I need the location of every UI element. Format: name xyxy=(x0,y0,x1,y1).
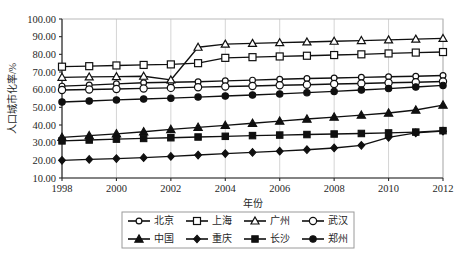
x-tick-label: 2012 xyxy=(433,183,454,194)
series-marker xyxy=(277,132,283,138)
series-marker xyxy=(58,86,65,93)
series-marker xyxy=(331,52,338,59)
series-marker xyxy=(303,52,310,59)
series-marker xyxy=(304,89,310,95)
series-marker xyxy=(249,132,255,138)
chart-canvas: 10.0020.0030.0040.0050.0060.0070.0080.00… xyxy=(0,0,467,264)
legend-item-重庆[interactable]: 重庆 xyxy=(180,230,238,248)
series-marker xyxy=(249,92,255,98)
legend-marker xyxy=(136,218,142,224)
series-marker xyxy=(168,95,174,101)
chart-legend: 北京上海广州武汉中国重庆长沙郑州 xyxy=(122,212,354,248)
series-marker xyxy=(167,84,174,91)
series-marker xyxy=(168,135,174,141)
series-marker xyxy=(140,85,147,92)
x-tick-label: 2010 xyxy=(378,183,399,194)
legend-item-中国[interactable]: 中国 xyxy=(122,230,180,248)
series-marker xyxy=(222,133,228,139)
series-marker xyxy=(331,88,337,94)
series-marker xyxy=(412,49,419,56)
series-marker xyxy=(195,134,201,140)
legend-item-上海[interactable]: 上海 xyxy=(180,212,238,230)
legend-marker xyxy=(252,236,258,242)
series-marker xyxy=(385,130,391,136)
series-marker xyxy=(440,49,447,56)
legend-marker xyxy=(309,217,316,224)
series-marker xyxy=(358,130,364,136)
legend-item-label: 武汉 xyxy=(328,214,348,226)
series-marker xyxy=(113,97,119,103)
series-marker xyxy=(222,93,228,99)
urbanization-rate-line-chart: 10.0020.0030.0040.0050.0060.0070.0080.00… xyxy=(0,0,467,264)
series-marker xyxy=(113,62,120,69)
legend-item-label: 上海 xyxy=(212,214,232,226)
series-marker xyxy=(358,80,365,87)
x-tick-label: 2002 xyxy=(160,183,181,194)
series-marker xyxy=(440,127,446,133)
y-tick-label: 30.00 xyxy=(32,137,56,148)
series-marker xyxy=(304,131,310,137)
series-marker xyxy=(249,82,256,89)
legend-item-label: 中国 xyxy=(154,232,174,244)
series-marker xyxy=(385,85,391,91)
series-marker xyxy=(140,135,146,141)
series-marker xyxy=(86,137,92,143)
y-tick-label: 10.00 xyxy=(32,173,56,184)
x-tick-label: 2000 xyxy=(106,183,127,194)
series-marker xyxy=(222,83,229,90)
series-marker xyxy=(86,98,92,104)
y-tick-label: 20.00 xyxy=(32,155,56,166)
series-marker xyxy=(277,91,283,97)
y-tick-label: 60.00 xyxy=(32,84,56,95)
y-tick-label: 90.00 xyxy=(32,31,56,42)
series-marker xyxy=(331,80,338,87)
series-marker xyxy=(249,54,256,61)
series-marker xyxy=(113,136,119,142)
series-marker xyxy=(385,50,392,57)
series-marker xyxy=(59,63,66,70)
legend-item-label: 长沙 xyxy=(270,233,290,244)
series-marker xyxy=(86,63,93,70)
series-marker xyxy=(413,84,419,90)
legend-item-北京[interactable]: 北京 xyxy=(122,212,180,230)
legend-marker xyxy=(194,218,201,225)
series-marker xyxy=(222,54,229,61)
legend-item-郑州[interactable]: 郑州 xyxy=(296,230,354,248)
legend-marker xyxy=(310,236,316,242)
series-marker xyxy=(413,129,419,135)
series-marker xyxy=(140,61,147,68)
series-marker xyxy=(167,61,174,68)
series-marker xyxy=(59,138,65,144)
series-marker xyxy=(113,85,120,92)
series-marker xyxy=(59,99,65,105)
legend-item-label: 广州 xyxy=(270,215,290,226)
y-axis-title: 人口城市化率/% xyxy=(6,63,18,134)
series-marker xyxy=(195,94,201,100)
legend-item-label: 北京 xyxy=(154,214,174,226)
y-tick-label: 50.00 xyxy=(32,102,56,113)
series-marker xyxy=(358,87,364,93)
series-marker xyxy=(86,86,93,93)
series-marker xyxy=(303,81,310,88)
legend-item-武汉[interactable]: 武汉 xyxy=(296,212,354,230)
legend-item-label: 郑州 xyxy=(328,232,348,244)
series-marker xyxy=(358,51,365,58)
legend-item-广州[interactable]: 广州 xyxy=(238,212,296,230)
y-tick-label: 70.00 xyxy=(32,67,56,78)
x-tick-label: 2008 xyxy=(324,183,345,194)
x-axis-title: 年份 xyxy=(243,197,263,209)
x-tick-label: 2004 xyxy=(215,183,237,194)
x-tick-label: 2006 xyxy=(269,183,290,194)
series-marker xyxy=(276,53,283,60)
legend-item-长沙[interactable]: 长沙 xyxy=(238,230,296,248)
series-marker xyxy=(331,131,337,137)
y-tick-label: 80.00 xyxy=(32,49,56,60)
series-marker xyxy=(195,60,202,67)
series-marker xyxy=(440,82,446,88)
series-marker xyxy=(194,84,201,91)
y-tick-label: 40.00 xyxy=(32,120,56,131)
x-tick-label: 1998 xyxy=(52,183,73,194)
series-marker xyxy=(276,82,283,89)
legend-item-label: 重庆 xyxy=(212,232,232,244)
series-marker xyxy=(140,96,146,102)
